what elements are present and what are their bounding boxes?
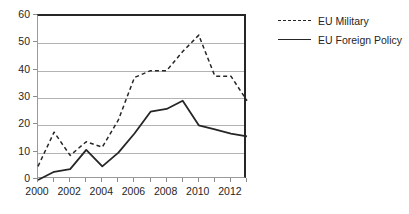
legend-line-dashed-icon [278,16,311,26]
x-tick-label: 2008 [154,185,177,197]
x-tick-label: 2010 [186,185,209,197]
plot-area [37,14,246,178]
x-tick-mark [53,178,54,182]
x-tick-label: 2012 [218,185,241,197]
series-line-eu-military [38,35,247,166]
x-tick-mark [214,178,215,182]
x-tick-mark [101,178,102,182]
x-tick-mark [166,178,167,182]
x-tick-mark [150,178,151,182]
x-tick-mark [182,178,183,182]
x-tick-mark [37,178,38,182]
y-tick-label: 0 [24,173,30,183]
x-tick-mark [69,178,70,182]
y-tick-label: 60 [18,9,30,19]
series-line-eu-foreign-policy [38,101,247,180]
x-tick-label: 2000 [25,185,48,197]
legend-label: EU Military [318,15,369,27]
x-tick-mark [246,178,247,182]
x-tick-mark [133,178,134,182]
x-tick-mark [117,178,118,182]
legend-item-eu-military[interactable]: EU Military [278,11,406,30]
y-tick-label: 20 [18,118,30,128]
x-tick-mark [85,178,86,182]
y-tick-label: 30 [18,91,30,101]
x-tick-label: 2004 [90,185,113,197]
x-axis: 2000200220042006200820102012 [37,178,246,212]
y-tick-label: 10 [18,146,30,156]
x-tick-mark [198,178,199,182]
y-tick-label: 50 [18,36,30,46]
y-axis: 6050403020100 [0,0,37,200]
x-tick-label: 2006 [122,185,145,197]
line-chart-figure: 6050403020100 20002002200420062008201020… [0,0,409,214]
y-tick-label: 40 [18,64,30,74]
x-tick-mark [230,178,231,182]
series-layer [38,16,247,180]
legend-line-solid-icon [278,35,311,45]
x-tick-label: 2002 [57,185,80,197]
legend-item-eu-foreign-policy[interactable]: EU Foreign Policy [278,30,406,49]
chart-legend: EU MilitaryEU Foreign Policy [278,11,406,49]
legend-label: EU Foreign Policy [318,34,402,46]
